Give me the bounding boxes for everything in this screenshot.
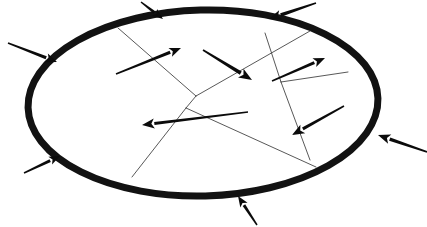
external-arrow-bottom-center-shaft <box>243 204 258 225</box>
boundary-layer <box>26 5 381 200</box>
external-arrow-top-right-shaft <box>280 2 316 16</box>
external-arrow-top-left-outer <box>8 42 57 62</box>
external-arrow-bottom-center-head <box>238 196 248 207</box>
external-arrow-top-center-shaft <box>141 1 156 13</box>
external-arrow-right-head <box>378 134 391 143</box>
external-arrow-top-left-outer-shaft <box>8 42 47 59</box>
external-arrow-right <box>378 134 427 152</box>
external-arrow-right-shaft <box>389 137 427 152</box>
figure-root <box>0 0 427 227</box>
external-arrow-bottom-left-shaft <box>24 159 51 173</box>
diagram-canvas <box>0 0 427 227</box>
external-arrow-bottom-center <box>238 196 258 225</box>
external-arrow-top-right <box>269 2 316 19</box>
external-arrow-bottom-left <box>24 156 60 174</box>
outer-ellipse <box>26 5 381 200</box>
